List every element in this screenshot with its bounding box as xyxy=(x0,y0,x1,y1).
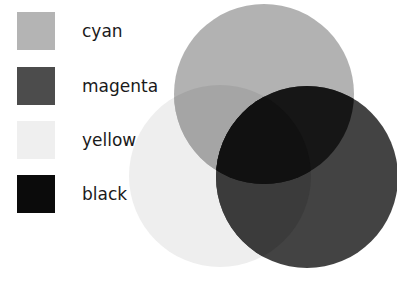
venn-diagram xyxy=(0,0,397,282)
